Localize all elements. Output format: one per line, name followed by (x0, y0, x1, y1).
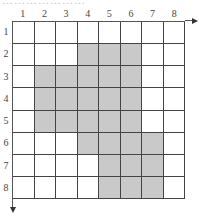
row-label: 2 (1, 48, 11, 59)
grid-board (12, 21, 185, 199)
grid-cell-shaded (56, 88, 78, 110)
grid-cell-shaded (35, 88, 57, 110)
grid-cell (56, 22, 78, 44)
grid-cell (56, 44, 78, 66)
x-axis-arrow-icon (192, 18, 198, 24)
grid-cell-shaded (99, 44, 121, 66)
grid-cell (13, 22, 35, 44)
grid-cell (13, 111, 35, 133)
grid-cell (13, 133, 35, 155)
row-label: 6 (1, 137, 11, 148)
column-label: 1 (12, 8, 34, 19)
grid-cell-shaded (121, 177, 143, 199)
column-label: 6 (120, 8, 142, 19)
grid-cell-shaded (121, 88, 143, 110)
grid-cell (35, 22, 57, 44)
grid-cell (164, 22, 186, 44)
grid-cell-shaded (78, 66, 100, 88)
grid-cell (164, 66, 186, 88)
column-label: 2 (34, 8, 56, 19)
grid-cell (142, 22, 164, 44)
grid-cell-shaded (99, 88, 121, 110)
grid-cell (142, 88, 164, 110)
grid-cell (56, 133, 78, 155)
grid-cell (164, 44, 186, 66)
grid-cell (142, 66, 164, 88)
grid-cell-shaded (121, 155, 143, 177)
grid-cell-shaded (78, 111, 100, 133)
grid-cell (142, 111, 164, 133)
column-label: 7 (142, 8, 164, 19)
grid-cell (164, 155, 186, 177)
y-axis-arrow-icon (10, 207, 16, 213)
grid-cell (142, 44, 164, 66)
grid-cell (78, 177, 100, 199)
grid-cell-shaded (35, 66, 57, 88)
grid-cell (13, 66, 35, 88)
grid-cell-shaded (99, 111, 121, 133)
grid-cell (13, 177, 35, 199)
grid-cell-shaded (78, 133, 100, 155)
grid-cell (164, 111, 186, 133)
column-label: 3 (55, 8, 77, 19)
grid-cell-shaded (121, 44, 143, 66)
column-label: 5 (99, 8, 121, 19)
grid-cell (164, 133, 186, 155)
grid-cell-shaded (35, 111, 57, 133)
grid-cell (35, 44, 57, 66)
grid-cell-shaded (99, 177, 121, 199)
grid-cell-shaded (121, 133, 143, 155)
grid-cell-shaded (99, 155, 121, 177)
row-label: 5 (1, 115, 11, 126)
grid-cell (13, 88, 35, 110)
row-label: 3 (1, 71, 11, 82)
grid-cell (78, 22, 100, 44)
row-label: 4 (1, 93, 11, 104)
column-label: 8 (163, 8, 185, 19)
grid-cell-shaded (56, 111, 78, 133)
row-label: 1 (1, 26, 11, 37)
grid-cell (35, 155, 57, 177)
grid-cell (99, 22, 121, 44)
grid-cell-shaded (78, 88, 100, 110)
grid-cell (164, 88, 186, 110)
cutoff-caption-text: ………………… (2, 0, 86, 6)
grid-cell-shaded (121, 111, 143, 133)
grid-cell (56, 177, 78, 199)
grid-cell (13, 44, 35, 66)
grid-cell (56, 155, 78, 177)
grid-cell-shaded (99, 66, 121, 88)
grid-cell (13, 155, 35, 177)
grid-cell-shaded (121, 66, 143, 88)
column-label: 4 (77, 8, 99, 19)
grid-cell (121, 22, 143, 44)
grid-cell-shaded (142, 177, 164, 199)
grid-cell-shaded (56, 66, 78, 88)
grid-cell-shaded (142, 155, 164, 177)
grid-cell-shaded (78, 44, 100, 66)
grid-cell (35, 133, 57, 155)
grid-cell-shaded (99, 133, 121, 155)
grid-cell (35, 177, 57, 199)
row-label: 7 (1, 160, 11, 171)
grid-cell-shaded (142, 133, 164, 155)
row-label: 8 (1, 182, 11, 193)
grid-cell (78, 155, 100, 177)
grid-cell (164, 177, 186, 199)
